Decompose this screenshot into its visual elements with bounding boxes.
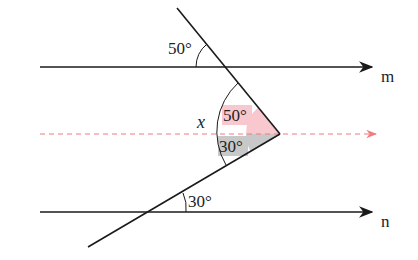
top-angle-arc (196, 44, 207, 67)
bottom-angle-label: 30° (188, 192, 212, 211)
upper-part-label: 50° (223, 106, 247, 125)
bottom-angle-arc (183, 193, 186, 212)
line-n-label: n (381, 212, 390, 231)
top-angle-label: 50° (168, 39, 192, 58)
line-m-label: m (381, 67, 394, 86)
unknown-angle-label: x (196, 112, 205, 132)
lower-transversal (88, 134, 280, 247)
diagram-canvas: 50° 30° 50° 30° x m n (0, 0, 418, 260)
lower-part-label: 30° (219, 137, 243, 156)
